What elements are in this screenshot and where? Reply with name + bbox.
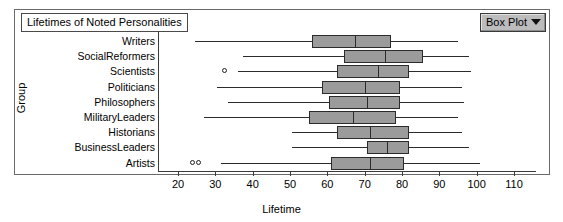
x-axis-tick [327, 172, 328, 176]
box-iqr[interactable] [337, 65, 410, 78]
plot-type-dropdown[interactable]: Box Plot [480, 13, 546, 32]
box-plot-row[interactable] [0, 34, 563, 49]
x-axis-tick-label: 110 [494, 178, 534, 190]
x-axis-tick-label: 20 [158, 178, 198, 190]
median-line [370, 157, 371, 170]
median-line [387, 141, 388, 154]
x-axis-tick-label: 50 [270, 178, 310, 190]
x-axis-tick [514, 172, 515, 176]
box-iqr[interactable] [331, 157, 404, 170]
x-axis-tick [253, 172, 254, 176]
box-plot-row[interactable] [0, 95, 563, 110]
outlier-point[interactable] [190, 160, 195, 165]
box-plot-row[interactable] [0, 80, 563, 95]
x-axis-tick [365, 172, 366, 176]
x-axis-tick-label: 70 [345, 178, 385, 190]
box-plot-row[interactable] [0, 156, 563, 171]
x-axis-tick-label: 80 [382, 178, 422, 190]
x-axis-tick [477, 172, 478, 176]
outlier-point[interactable] [196, 160, 201, 165]
median-line [353, 111, 354, 124]
x-axis-tick [178, 172, 179, 176]
median-line [370, 126, 371, 139]
box-plot-row[interactable] [0, 49, 563, 64]
box-iqr[interactable] [312, 35, 390, 48]
median-line [367, 96, 368, 109]
median-line [355, 35, 356, 48]
x-axis-tick [290, 172, 291, 176]
box-iqr[interactable] [322, 81, 400, 94]
chart-title: Lifetimes of Noted Personalities [21, 13, 188, 32]
x-axis-tick [215, 172, 216, 176]
box-plot-row[interactable] [0, 110, 563, 125]
median-line [378, 65, 379, 78]
x-axis-tick [439, 172, 440, 176]
box-plot-row[interactable] [0, 64, 563, 79]
box-iqr[interactable] [337, 126, 410, 139]
box-plot-row[interactable] [0, 125, 563, 140]
box-plot-row[interactable] [0, 140, 563, 155]
x-axis-tick-label: 90 [419, 178, 459, 190]
x-axis-tick-label: 60 [307, 178, 347, 190]
x-axis-tick-label: 30 [195, 178, 235, 190]
x-axis-tick-label: 100 [457, 178, 497, 190]
median-line [385, 50, 386, 63]
x-axis-title: Lifetime [0, 203, 563, 215]
median-line [365, 81, 366, 94]
box-plot-screenshot: Lifetimes of Noted Personalities Box Plo… [0, 0, 563, 222]
x-axis-tick [402, 172, 403, 176]
box-iqr[interactable] [329, 96, 400, 109]
x-axis-tick-label: 40 [233, 178, 273, 190]
box-iqr[interactable] [344, 50, 422, 63]
plot-type-label: Box Plot [486, 14, 527, 31]
outlier-point[interactable] [222, 68, 227, 73]
chevron-down-icon [531, 19, 541, 25]
